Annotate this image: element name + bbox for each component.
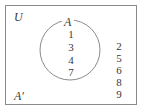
complement-label: A′ — [14, 90, 24, 102]
element: 8 — [114, 77, 124, 88]
element: 2 — [114, 41, 124, 52]
set-a-label: A — [64, 16, 71, 28]
universe-label: U — [14, 11, 23, 23]
element: 9 — [114, 89, 124, 100]
element: 3 — [66, 42, 76, 53]
element: 5 — [114, 53, 124, 64]
element: 7 — [66, 67, 76, 78]
element: 6 — [114, 65, 124, 76]
element: 1 — [66, 29, 76, 40]
element: 4 — [66, 55, 76, 66]
